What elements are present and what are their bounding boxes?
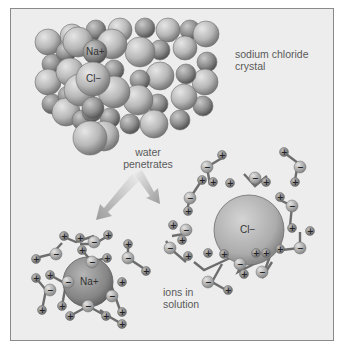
svg-text:+: +	[253, 249, 260, 258]
svg-text:+: +	[59, 302, 66, 311]
solution-cl-label: Cl−	[240, 224, 255, 235]
svg-text:+: +	[119, 320, 126, 329]
svg-text:−: −	[297, 244, 304, 253]
svg-text:−: −	[47, 286, 54, 295]
svg-text:+: +	[292, 178, 299, 187]
svg-text:+: +	[61, 232, 68, 241]
svg-text:−: −	[109, 292, 116, 301]
svg-text:+: +	[119, 278, 126, 287]
svg-text:+: +	[227, 179, 234, 188]
svg-text:+: +	[47, 271, 54, 280]
svg-text:−: −	[85, 302, 92, 311]
svg-text:−: −	[205, 278, 212, 287]
svg-text:−: −	[297, 163, 304, 172]
svg-text:+: +	[199, 176, 206, 185]
svg-text:+: +	[143, 267, 150, 276]
chloride-ion-hydrated: Cl−	[164, 148, 315, 296]
svg-text:+: +	[79, 246, 86, 255]
svg-text:+: +	[205, 249, 212, 258]
svg-text:+: +	[170, 221, 177, 230]
svg-text:+: +	[33, 255, 40, 264]
svg-text:+: +	[225, 286, 232, 295]
svg-text:+: +	[104, 254, 111, 263]
arrows	[96, 170, 160, 220]
svg-text:+: +	[277, 245, 284, 254]
solution-na-label: Na+	[80, 276, 99, 287]
crystal-caption: sodium chloride crystal	[235, 48, 309, 72]
svg-text:+: +	[77, 234, 84, 243]
svg-text:+: +	[241, 270, 248, 279]
svg-text:+: +	[210, 178, 217, 187]
process-caption-line2: penetrates	[118, 158, 178, 170]
svg-text:+: +	[179, 236, 186, 245]
crystal-caption-line1: sodium chloride	[235, 48, 309, 60]
svg-text:+: +	[289, 224, 296, 233]
arrow-right-icon	[134, 170, 160, 204]
crystal-na-label: Na+	[86, 46, 105, 57]
svg-text:−: −	[259, 268, 266, 277]
process-caption: water penetrates	[118, 146, 178, 170]
svg-text:−: −	[252, 174, 259, 183]
svg-text:−: −	[65, 278, 72, 287]
svg-text:+: +	[119, 308, 126, 317]
svg-text:−: −	[91, 238, 98, 247]
svg-text:+: +	[185, 252, 192, 261]
svg-text:−: −	[125, 254, 132, 263]
svg-text:+: +	[185, 207, 192, 216]
solution-caption-line2: solution	[163, 298, 199, 310]
process-caption-line1: water	[118, 146, 178, 158]
svg-text:−: −	[187, 194, 194, 203]
svg-text:−: −	[167, 244, 174, 253]
svg-text:+: +	[277, 193, 284, 202]
svg-text:+: +	[219, 151, 226, 160]
crystal-caption-line2: crystal	[235, 60, 309, 72]
svg-text:+: +	[263, 249, 270, 258]
solution-caption-line1: ions in	[163, 286, 199, 298]
svg-text:−: −	[53, 250, 60, 259]
sodium-chloride-crystal: Na+ Cl−	[35, 18, 219, 155]
solution-caption: ions in solution	[163, 286, 199, 310]
sodium-ion-hydrated: Na+	[32, 231, 151, 330]
svg-text:−: −	[89, 258, 96, 267]
svg-text:+: +	[103, 312, 110, 321]
svg-text:−: −	[183, 226, 190, 235]
svg-text:+: +	[125, 240, 132, 249]
svg-text:+: +	[105, 231, 112, 240]
svg-text:+: +	[33, 274, 40, 283]
crystal-cl-label: Cl−	[86, 73, 101, 84]
svg-text:+: +	[263, 178, 270, 187]
svg-text:−: −	[204, 163, 211, 172]
svg-text:+: +	[307, 227, 314, 236]
svg-text:−: −	[237, 260, 244, 269]
svg-text:−: −	[289, 202, 296, 211]
arrow-left-icon	[96, 174, 140, 220]
svg-text:+: +	[39, 306, 46, 315]
svg-text:+: +	[221, 250, 228, 259]
svg-text:+: +	[67, 312, 74, 321]
svg-text:+: +	[281, 148, 288, 157]
